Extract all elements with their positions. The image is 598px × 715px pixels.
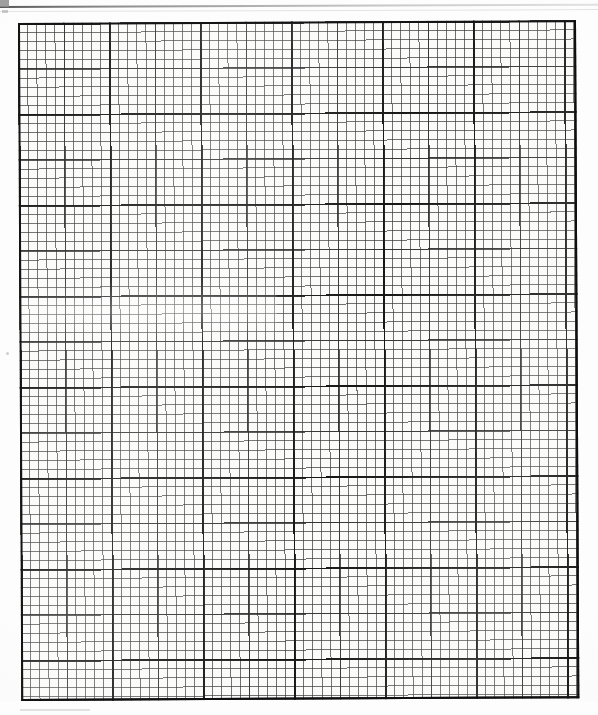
scan-corner-mark — [0, 0, 9, 7]
scan-corner-mark-secondary — [2, 10, 8, 13]
scanned-page — [0, 0, 598, 715]
page-bottom-margin — [0, 701, 598, 715]
grid-lines — [18, 20, 579, 701]
graph-paper-grid — [18, 20, 579, 701]
